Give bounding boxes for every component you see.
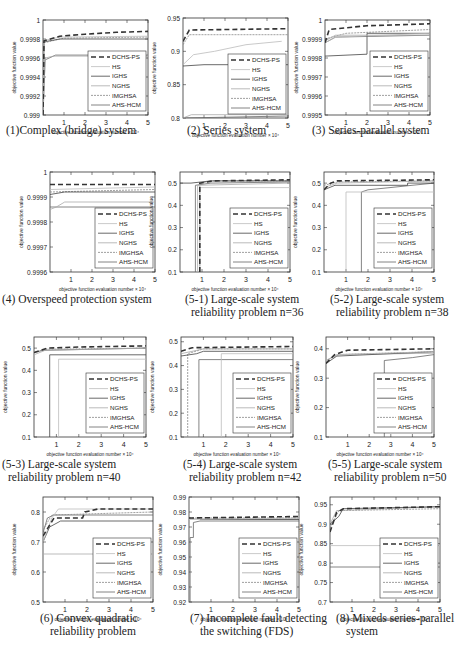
svg-text:NGHS: NGHS [404,569,422,576]
series-nghs [330,507,440,525]
chart-svg: 0.950.90.850.80.750.712345objective func… [0,0,457,659]
svg-text:DCHS-PS: DCHS-PS [404,540,432,547]
svg-text:IMGHSA: IMGHSA [404,579,429,586]
svg-text:AHS-HCM: AHS-HCM [404,588,433,595]
chart-caption: (8) Mixeds series-parallelsystem [336,612,454,638]
svg-text:0.9: 0.9 [318,521,327,528]
svg-text:0.7: 0.7 [318,599,327,606]
svg-text:0.95: 0.95 [314,501,327,508]
svg-text:objective function value: objective function value [298,523,304,575]
svg-text:0.8: 0.8 [318,560,327,567]
svg-text:0.75: 0.75 [314,579,327,586]
svg-text:HS: HS [404,550,413,557]
legend: DCHS-PSHSIGHSNGHSIMGHSAAHS-HCM [380,538,438,598]
series-ighs [330,507,440,525]
series-imghsa [330,509,440,528]
svg-text:0.85: 0.85 [314,540,327,547]
caption-line: (8) Mixeds series-parallel [336,612,454,625]
svg-text:IGHS: IGHS [404,559,419,566]
caption-line: system [336,625,454,638]
